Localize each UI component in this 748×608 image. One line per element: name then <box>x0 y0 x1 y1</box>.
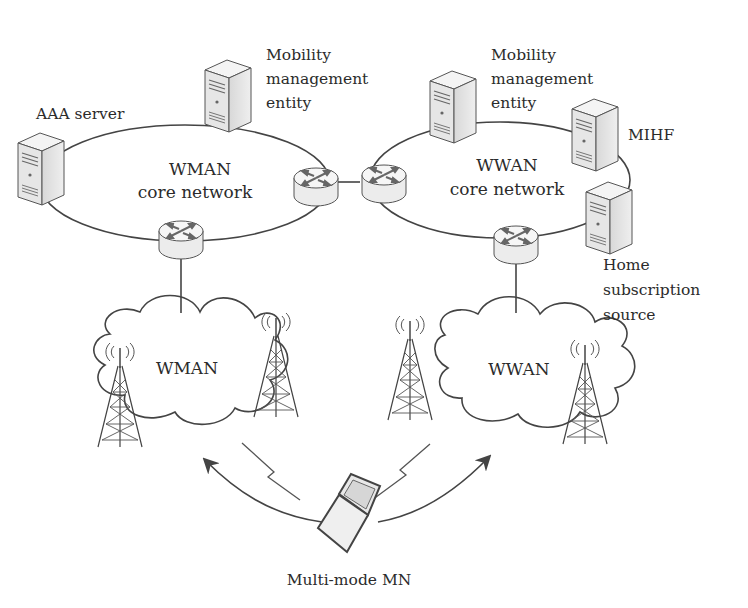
aaa-server-icon[interactable] <box>18 133 64 205</box>
network-diagram: WMAN core network WWAN core network AAA … <box>0 0 748 608</box>
hss-label-line2: subscription <box>603 281 700 299</box>
wwan-border-router-icon[interactable] <box>362 165 406 203</box>
wman-border-router-icon[interactable] <box>294 168 338 206</box>
mobile-node-label: Multi-mode MN <box>287 571 412 589</box>
wwan-access-label: WWAN <box>488 359 549 379</box>
wman-gateway-router-icon[interactable] <box>159 221 203 259</box>
mme-right-label-line2: management <box>491 70 594 88</box>
mme-left-label-line2: management <box>266 70 369 88</box>
wman-tower-left-icon[interactable] <box>98 343 142 447</box>
wman-tower-right-icon[interactable] <box>254 313 298 417</box>
wman-core-subtitle: core network <box>138 182 253 202</box>
wman-access-label: WMAN <box>156 358 218 378</box>
hss-label-line3: source <box>603 306 656 324</box>
wman-core-title: WMAN <box>169 159 231 179</box>
mme-right-label-line3: entity <box>491 94 537 112</box>
mihf-label: MIHF <box>628 126 675 144</box>
mme-left-server-icon[interactable] <box>205 60 251 132</box>
wwan-core-title: WWAN <box>476 155 537 175</box>
handover-arrow-right <box>378 458 488 522</box>
wireless-link-wman-icon <box>242 443 300 500</box>
wwan-tower-left-icon[interactable] <box>388 316 432 420</box>
mme-right-label-line1: Mobility <box>491 46 556 64</box>
wwan-core-subtitle: core network <box>450 179 565 199</box>
hss-label-line1: Home <box>603 256 650 274</box>
wireless-link-wwan-icon <box>372 444 430 500</box>
mme-left-label-line1: Mobility <box>266 46 331 64</box>
hss-server-icon[interactable] <box>586 182 632 254</box>
wwan-tower-right-icon[interactable] <box>563 340 607 444</box>
wwan-gateway-router-icon[interactable] <box>494 226 538 264</box>
mme-right-server-icon[interactable] <box>430 71 476 143</box>
laptop-icon[interactable] <box>318 474 380 552</box>
mme-left-label-line3: entity <box>266 94 312 112</box>
mihf-server-icon[interactable] <box>572 99 618 171</box>
aaa-server-label: AAA server <box>35 105 125 123</box>
handover-arrow-left <box>206 461 322 522</box>
